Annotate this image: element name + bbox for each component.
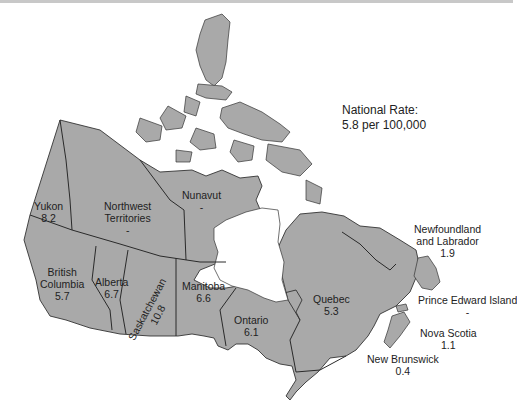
province-name: British: [40, 266, 84, 278]
province-rate: 8.2: [34, 212, 63, 224]
province-name: Nunavut: [182, 189, 221, 201]
province-name: Manitoba: [182, 280, 225, 292]
label-nova-scotia: Nova Scotia 1.1: [420, 327, 477, 351]
province-name: Quebec: [313, 293, 350, 305]
label-new-brunswick: New Brunswick 0.4: [367, 353, 439, 377]
province-rate: 6.6: [182, 292, 225, 304]
nova-scotia-shape: [384, 312, 410, 348]
province-rate: 1.9: [414, 247, 481, 259]
label-british-columbia: British Columbia 5.7: [40, 266, 84, 302]
province-name: Yukon: [34, 200, 63, 212]
province-rate: -: [104, 224, 151, 236]
province-name-line2: Territories: [104, 212, 151, 224]
province-rate: 5.3: [313, 305, 350, 317]
province-name: Nova Scotia: [420, 327, 477, 339]
province-name: Newfoundland: [414, 223, 481, 235]
label-manitoba: Manitoba 6.6: [182, 280, 225, 304]
province-name: Ontario: [234, 314, 268, 326]
province-rate: 0.4: [367, 365, 439, 377]
province-rate: 6.7: [95, 288, 128, 300]
label-prince-edward-island: Prince Edward Island -: [418, 294, 517, 318]
province-name: Northwest: [104, 200, 151, 212]
label-quebec: Quebec 5.3: [313, 293, 350, 317]
national-rate-value: 5.8 per 100,000: [342, 118, 426, 133]
province-name: New Brunswick: [367, 353, 439, 365]
province-rate: 1.1: [420, 339, 477, 351]
national-rate-label: National Rate:: [342, 103, 426, 118]
label-alberta: Alberta 6.7: [95, 276, 128, 300]
province-rate: -: [182, 201, 221, 213]
province-rate: 6.1: [234, 326, 268, 338]
province-rate: 5.7: [40, 290, 84, 302]
newfoundland-island: [414, 256, 440, 290]
province-name-line2: and Labrador: [414, 235, 481, 247]
label-nunavut: Nunavut -: [182, 189, 221, 213]
label-northwest-territories: Northwest Territories -: [104, 200, 151, 236]
label-yukon: Yukon 8.2: [34, 200, 63, 224]
province-name-line2: Columbia: [40, 278, 84, 290]
label-newfoundland-labrador: Newfoundland and Labrador 1.9: [414, 223, 481, 259]
pei-shape: [396, 304, 408, 312]
province-rate: -: [418, 306, 517, 318]
province-name: Prince Edward Island: [418, 294, 517, 306]
province-name: Alberta: [95, 276, 128, 288]
label-ontario: Ontario 6.1: [234, 314, 268, 338]
national-rate: National Rate: 5.8 per 100,000: [342, 103, 426, 133]
